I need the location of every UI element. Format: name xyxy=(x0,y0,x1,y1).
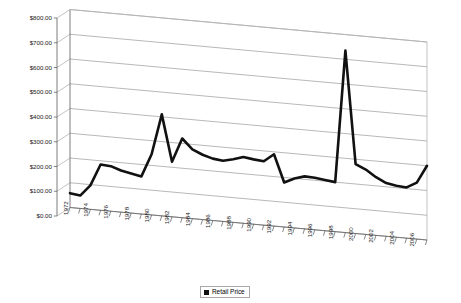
x-axis-tick xyxy=(415,239,417,244)
x-axis-tick-label: 2002 xyxy=(368,229,375,243)
x-axis-labels: 1972197419761978198019821984198619881990… xyxy=(62,201,416,247)
x-axis-tick xyxy=(283,227,285,232)
chart-container: $0.00$100.00$200.00$300.00$400.00$500.00… xyxy=(0,0,461,303)
x-axis-tick xyxy=(181,218,183,223)
x-axis-tick xyxy=(262,225,264,230)
x-axis-tick xyxy=(119,212,121,217)
y-axis-tick-label: $0.00 xyxy=(37,212,53,219)
x-axis-tick xyxy=(99,210,101,215)
x-axis-tick xyxy=(140,214,142,219)
x-axis-tick xyxy=(354,234,356,239)
x-axis-tick xyxy=(211,221,213,226)
axis-depth-connector xyxy=(57,109,70,118)
x-axis-tick-label: 1978 xyxy=(123,206,130,220)
retail-price-line-chart: $0.00$100.00$200.00$300.00$400.00$500.00… xyxy=(0,0,461,303)
x-axis-tick-label: 2004 xyxy=(388,230,395,244)
x-axis-tick xyxy=(385,236,387,241)
gridline xyxy=(70,133,427,166)
x-axis-tick xyxy=(425,240,427,245)
x-axis-tick-label: 2000 xyxy=(347,227,354,241)
x-axis-tick-label: 1996 xyxy=(306,223,313,237)
x-axis-tick xyxy=(150,215,152,220)
x-axis-tick xyxy=(252,224,254,229)
y-axis-ticks xyxy=(54,18,57,216)
axis-depth-connector xyxy=(57,10,70,19)
x-axis-tick xyxy=(232,222,234,227)
gridline xyxy=(70,109,427,142)
x-axis-tick xyxy=(79,208,81,213)
x-axis-tick xyxy=(221,221,223,226)
chart-legend: Retail Price xyxy=(200,286,250,298)
y-axis-tick-label: $300.00 xyxy=(30,138,53,145)
x-axis-tick-label: 1990 xyxy=(245,217,252,231)
x-axis-tick xyxy=(130,213,132,218)
y-axis-tick-label: $200.00 xyxy=(30,163,53,170)
x-axis-tick xyxy=(272,226,274,231)
y-axis-tick-label: $700.00 xyxy=(30,39,53,46)
x-axis-tick xyxy=(323,231,325,236)
plot-top-edge xyxy=(70,10,427,43)
chart-walls xyxy=(57,10,427,241)
x-axis-tick-label: 1972 xyxy=(62,201,69,215)
gridline xyxy=(70,84,427,117)
x-axis-tick-label: 1984 xyxy=(184,212,191,226)
legend-swatch-retail-price xyxy=(204,290,209,295)
gridline xyxy=(70,34,427,67)
x-axis-tick xyxy=(374,235,376,240)
x-axis-tick-label: 1980 xyxy=(143,208,150,222)
legend-label-retail-price: Retail Price xyxy=(212,288,245,296)
x-axis-tick-label: 1998 xyxy=(327,225,334,239)
axis-depth-connector xyxy=(57,34,70,43)
axis-depth-connector xyxy=(57,158,70,167)
x-axis-tick xyxy=(109,211,111,216)
x-axis-tick-label: 1994 xyxy=(286,221,293,235)
x-axis-tick xyxy=(242,223,244,228)
y-axis-tick-label: $600.00 xyxy=(30,64,53,71)
x-axis-tick-label: 1974 xyxy=(82,203,89,217)
y-axis-tick-label: $400.00 xyxy=(30,113,53,120)
series-line-retail-price xyxy=(70,51,427,196)
x-axis-tick xyxy=(334,232,336,237)
y-axis-tick-label: $800.00 xyxy=(30,14,53,21)
x-axis-tick xyxy=(89,209,91,214)
axis-depth-connector xyxy=(57,133,70,142)
data-series-group xyxy=(70,51,427,196)
gridline xyxy=(70,59,427,92)
x-axis-tick xyxy=(201,220,203,225)
x-axis-tick xyxy=(170,217,172,222)
x-axis-tick xyxy=(395,237,397,242)
x-axis-tick xyxy=(405,238,407,243)
axis-depth-connector xyxy=(57,84,70,93)
x-axis-tick-label: 1988 xyxy=(225,216,232,230)
x-axis-tick xyxy=(313,230,315,235)
x-axis-tick xyxy=(293,228,295,233)
x-axis-tick-label: 1976 xyxy=(102,204,109,218)
axis-depth-connector xyxy=(57,59,70,68)
y-axis-tick-label: $100.00 xyxy=(30,187,53,194)
x-axis-tick-label: 1982 xyxy=(164,210,171,224)
x-axis-tick xyxy=(160,216,162,221)
x-axis-tick-label: 2006 xyxy=(408,232,415,246)
axis-depth-connector xyxy=(57,183,70,192)
x-axis-tick xyxy=(303,229,305,234)
gridlines-group xyxy=(70,10,427,241)
y-axis-tick-label: $500.00 xyxy=(30,88,53,95)
y-axis-labels: $0.00$100.00$200.00$300.00$400.00$500.00… xyxy=(30,14,53,219)
x-axis-tick xyxy=(191,219,193,224)
x-axis-tick xyxy=(344,233,346,238)
x-axis-tick-label: 1986 xyxy=(204,214,211,228)
x-axis-tick xyxy=(364,234,366,239)
x-axis-tick-label: 1992 xyxy=(266,219,273,233)
